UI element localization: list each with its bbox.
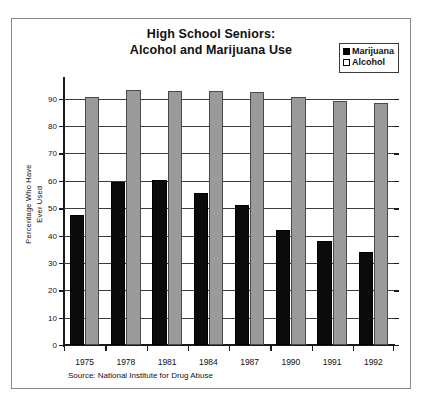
bar-alcohol-1978 [126, 90, 140, 345]
y-axis-tick-label: 0 [53, 341, 57, 350]
y-axis-tick-mark [59, 153, 64, 154]
y-axis-tick-mark-right [394, 126, 399, 127]
gridline [64, 99, 394, 100]
y-axis-tick-label: 70 [48, 149, 57, 158]
y-axis-tick-mark-right [394, 290, 399, 291]
bar-marijuana-1990 [276, 230, 290, 345]
plot-wrapper: 0102030405060708090197519781981198419871… [12, 19, 410, 388]
x-axis-tick-label-1978: 1978 [116, 357, 135, 367]
y-axis-tick-mark-right [394, 318, 399, 319]
bar-marijuana-1984 [194, 193, 208, 345]
y-axis-tick-mark-right [394, 181, 399, 182]
bar-marijuana-1991 [317, 241, 331, 345]
y-axis-tick-label: 60 [48, 176, 57, 185]
y-axis-tick-mark [59, 318, 64, 319]
bar-marijuana-1978 [111, 182, 125, 345]
y-axis-tick-mark [59, 290, 64, 291]
y-axis-tick-label: 90 [48, 94, 57, 103]
y-axis-tick-label: 40 [48, 231, 57, 240]
x-axis-tick-mark [105, 345, 106, 351]
y-axis-tick-label: 50 [48, 204, 57, 213]
bar-alcohol-1984 [209, 91, 223, 345]
y-axis-tick-label: 20 [48, 286, 57, 295]
y-axis-tick-label: 30 [48, 258, 57, 267]
y-axis-tick-mark-right [394, 208, 399, 209]
x-axis-tick-mark [229, 345, 230, 351]
y-axis-tick-mark [59, 126, 64, 127]
y-axis-tick-mark-right [394, 99, 399, 100]
y-axis-tick-label: 80 [48, 122, 57, 131]
x-axis-tick-label-1984: 1984 [199, 357, 218, 367]
bar-marijuana-1975 [70, 215, 84, 345]
x-axis-tick-mark [147, 345, 148, 351]
bar-alcohol-1987 [250, 92, 264, 345]
x-axis-tick-mark-end [393, 345, 394, 351]
x-axis-tick-label-1991: 1991 [323, 357, 342, 367]
x-axis-tick-mark [188, 345, 189, 351]
x-axis-tick-label-1987: 1987 [240, 357, 259, 367]
y-axis-tick-label: 10 [48, 313, 57, 322]
y-axis-tick-mark [59, 236, 64, 237]
bar-alcohol-1992 [374, 103, 388, 345]
y-axis-tick-mark [59, 208, 64, 209]
x-axis-tick-mark [270, 345, 271, 351]
x-axis-tick-label-1981: 1981 [158, 357, 177, 367]
x-axis-tick-mark [312, 345, 313, 351]
y-axis-tick-mark [59, 181, 64, 182]
y-axis-tick-mark-right [394, 345, 399, 346]
bar-alcohol-1990 [291, 97, 305, 345]
x-axis-tick-mark [64, 345, 65, 351]
bar-marijuana-1981 [152, 180, 166, 345]
bar-marijuana-1987 [235, 205, 249, 345]
y-axis-tick-mark [59, 99, 64, 100]
source-note: Source: National Institute for Drug Abus… [68, 371, 213, 380]
y-axis-tick-mark-right [394, 236, 399, 237]
bar-alcohol-1975 [85, 97, 99, 345]
y-axis-tick-mark-right [394, 153, 399, 154]
y-axis-tick-mark [59, 263, 64, 264]
x-axis-tick-label-1992: 1992 [364, 357, 383, 367]
bar-alcohol-1981 [168, 91, 182, 345]
bar-marijuana-1992 [359, 252, 373, 345]
x-axis-tick-mark [353, 345, 354, 351]
chart-figure: High School Seniors: Alcohol and Marijua… [11, 18, 411, 389]
x-axis-tick-label-1975: 1975 [75, 357, 94, 367]
bar-alcohol-1991 [333, 101, 347, 345]
plot-area: 0102030405060708090197519781981198419871… [64, 85, 394, 345]
x-axis-tick-label-1990: 1990 [281, 357, 300, 367]
y-axis-tick-mark-right [394, 263, 399, 264]
